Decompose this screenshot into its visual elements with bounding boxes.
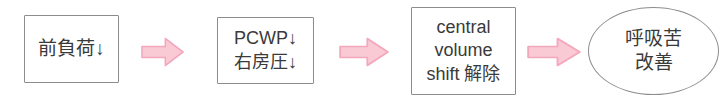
flow-node-central-line-1: central [436, 16, 490, 39]
right-arrow-icon [527, 37, 581, 67]
right-arrow-shape [339, 37, 389, 67]
right-arrow-shape [527, 37, 581, 67]
right-arrow-icon [339, 37, 389, 67]
flow-diagram: 前負荷↓ PCWP↓ 右房圧↓ central volume shift 解除 … [0, 0, 727, 104]
flow-node-central-line-2: volume [434, 39, 492, 62]
flow-node-central-line-3: shift 解除 [426, 63, 500, 86]
flow-node-preload: 前負荷↓ [24, 15, 119, 83]
flow-node-preload-line-1: 前負荷↓ [38, 38, 105, 60]
flow-node-outcome: 呼吸苦 改善 [588, 7, 719, 95]
flow-node-pcwp-line-1: PCWP↓ [234, 27, 297, 50]
right-arrow-shape [141, 37, 184, 67]
flow-node-outcome-line-2: 改善 [635, 51, 673, 75]
right-arrow-icon [141, 37, 184, 67]
flow-node-pcwp: PCWP↓ 右房圧↓ [217, 17, 314, 84]
flow-node-outcome-line-1: 呼吸苦 [625, 27, 682, 51]
flow-node-pcwp-line-2: 右房圧↓ [234, 51, 297, 74]
flow-node-central-volume-shift: central volume shift 解除 [411, 7, 516, 95]
